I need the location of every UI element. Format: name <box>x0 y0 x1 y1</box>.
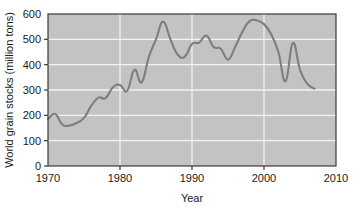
x-tick-label-1980: 1980 <box>108 172 132 184</box>
chart-container: 0100200300400500600 19701980199020002010… <box>0 0 360 212</box>
y-axis-title: World grain stocks (million tons) <box>3 12 15 168</box>
y-axis: 0100200300400500600 <box>23 8 48 172</box>
y-tick-label-0: 0 <box>35 160 41 172</box>
x-axis-title: Year <box>181 192 204 204</box>
line-chart: 0100200300400500600 19701980199020002010… <box>0 0 360 212</box>
x-tick-label-2000: 2000 <box>252 172 276 184</box>
y-tick-label-400: 400 <box>23 59 41 71</box>
x-tick-label-2010: 2010 <box>324 172 348 184</box>
x-tick-label-1990: 1990 <box>180 172 204 184</box>
y-tick-label-300: 300 <box>23 84 41 96</box>
y-tick-label-100: 100 <box>23 135 41 147</box>
y-tick-label-500: 500 <box>23 33 41 45</box>
y-tick-label-200: 200 <box>23 109 41 121</box>
y-tick-label-600: 600 <box>23 8 41 20</box>
x-axis: 19701980199020002010 <box>36 166 348 184</box>
x-tick-label-1970: 1970 <box>36 172 60 184</box>
